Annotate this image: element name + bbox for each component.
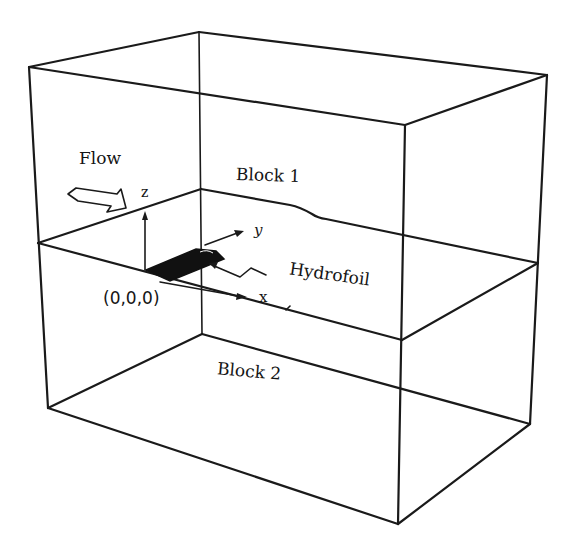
flow-arrow-icon (68, 188, 126, 212)
z-axis-label: z (141, 185, 148, 199)
z-axis (142, 211, 148, 270)
top-boundary-plane (29, 32, 547, 125)
x-axis (160, 282, 247, 300)
origin-label: (0,0,0) (103, 290, 160, 307)
bottom-boundary-plane (48, 334, 530, 524)
y-axis (205, 230, 244, 245)
x-axis-label: x (259, 290, 267, 305)
block-interface-plane (38, 189, 538, 340)
y-axis-label: y (254, 223, 262, 238)
domain-box-diagram (0, 0, 570, 539)
hydrofoil-leader-arrow (209, 262, 266, 277)
computational-domain-figure: Flow Block 1 Block 2 Hydrofoil (0,0,0) z… (0, 0, 570, 539)
flow-label: Flow (79, 150, 121, 167)
block-1-label: Block 1 (236, 166, 301, 185)
